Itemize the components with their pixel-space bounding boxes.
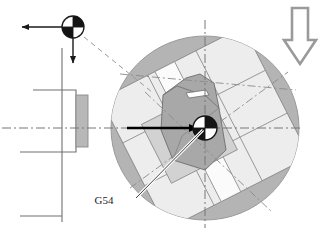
spindle-block (76, 95, 88, 147)
technical-diagram-canvas: G54 (0, 0, 319, 236)
g54-label: G54 (95, 194, 114, 206)
cnc-setup-diagram: G54 (0, 0, 319, 236)
